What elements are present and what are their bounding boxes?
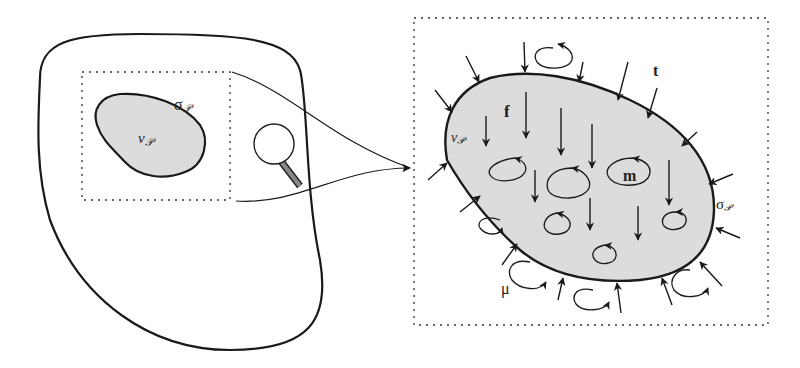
label-body-couple-m: m — [623, 167, 637, 184]
label-sigma-p-left: σ𝒫 — [174, 96, 194, 114]
diagram-canvas: v𝒫 σ𝒫 — [0, 0, 800, 368]
label-sigma-p-right: σ𝒫 — [716, 196, 734, 213]
right-panel: t f m μ v𝒫 σ𝒫 — [414, 18, 768, 325]
label-body-force-f: f — [504, 102, 510, 121]
body-outline — [38, 34, 322, 350]
left-panel: v𝒫 σ𝒫 — [38, 34, 410, 350]
label-surface-couple-mu: μ — [501, 280, 510, 298]
magnifying-glass-icon — [254, 124, 300, 186]
label-traction-t: t — [653, 62, 659, 79]
magnified-body-shape — [445, 74, 714, 281]
zoom-connector-bottom — [236, 168, 410, 201]
